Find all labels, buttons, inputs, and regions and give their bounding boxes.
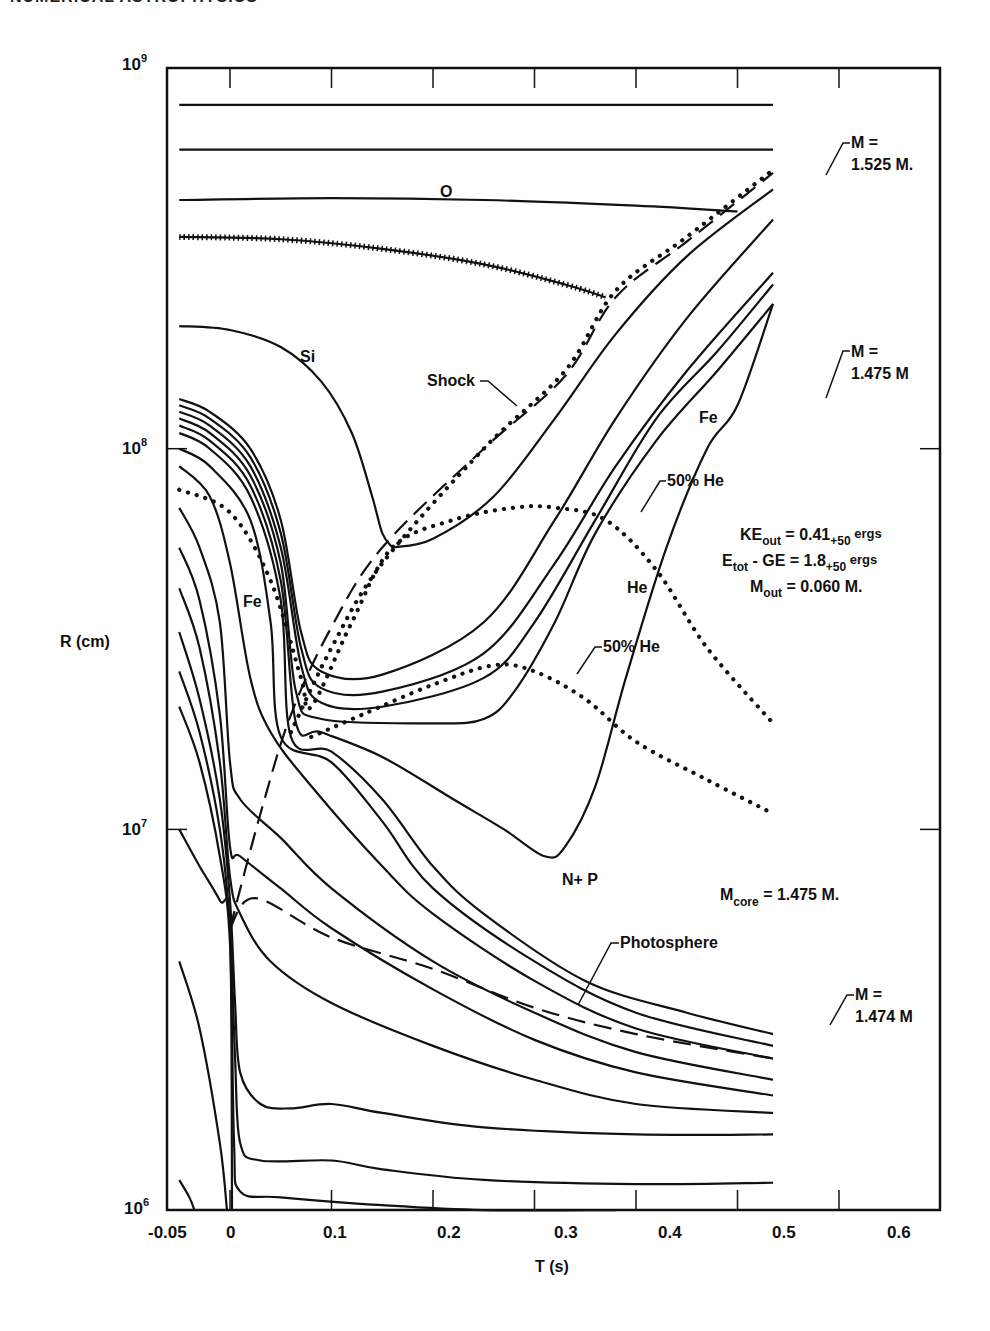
shock-curve [230,173,773,928]
plot-curves [179,105,773,1211]
inner-6-curve [179,588,773,1113]
x-tick-02: 0.2 [437,1223,461,1242]
label-mass-top-line1: M = [851,134,878,151]
he50-lower-leader [577,647,602,674]
label-fe-right: Fe [699,409,718,426]
x-tick-06: 0.6 [887,1223,911,1242]
inner-11-curve [179,961,227,1210]
label-shock: Shock [427,372,475,389]
x-tick-05: 0.5 [772,1223,796,1242]
x-tick-0: 0 [226,1223,235,1242]
photosphere-curve [230,898,773,1059]
photosphere-leader [578,943,619,1005]
x-axis-label: T (s) [535,1258,569,1275]
radius-vs-time-chart: 109 108 107 106 R (cm) -0.05 0 0.1 0.2 0… [0,0,990,1331]
inner-4-curve [179,508,773,1080]
mass-mid-leader [826,351,850,398]
x-tick-01: 0.1 [323,1223,347,1242]
y-tick-1e6: 106 [124,1196,149,1218]
y-axis-label: R (cm) [60,633,110,650]
o-si-boundary-curve [179,237,605,297]
mass-top-leader [826,143,850,175]
x-tick-04: 0.4 [658,1223,682,1242]
inner-7-curve [179,632,773,1135]
y-tick-1e7: 107 [122,817,147,839]
label-ke-out: KEout = 0.41+50 ergs [740,526,882,548]
si-shell-curve [179,326,392,548]
he50-upper-leader [641,481,666,512]
y-tick-1e9: 109 [122,52,147,74]
label-50he-lower: 50% He [603,638,660,655]
he50-lower-curve [311,664,773,813]
label-helium: He [627,579,648,596]
oxygen-shell-curve [179,198,737,211]
label-50he-upper: 50% He [667,472,724,489]
label-oxygen: O [440,183,452,200]
mass-bot-leader [830,995,854,1025]
label-etot-ge: Etot - GE = 1.8+50 ergs [722,552,877,574]
label-photosphere: Photosphere [620,934,718,951]
label-fe-left: Fe [243,593,262,610]
inner-3-curve [179,466,773,1058]
label-mass-bot-line2: 1.474 M [855,1008,913,1025]
label-neutrons-protons: N+ P [562,871,598,888]
label-m-out: Mout = 0.060 M. [750,578,862,600]
label-m-core: Mcore = 1.475 M. [720,886,839,909]
x-tick-03: 0.3 [554,1223,578,1242]
label-mass-mid-line1: M = [851,343,878,360]
shock-leader [480,381,517,406]
label-mass-bot-line1: M = [855,986,882,1003]
inner-2-curve [179,449,773,1046]
x-tick-m005: -0.05 [148,1223,187,1242]
inner-12-curve [179,1180,194,1210]
y-tick-1e8: 108 [122,436,147,458]
post-shock-1-curve [392,189,773,547]
label-mass-mid-line2: 1.475 M [851,365,909,382]
label-silicon: Si [300,348,315,365]
label-mass-top-line2: 1.525 M. [851,156,913,173]
o-si-boundary-curve [179,237,605,297]
